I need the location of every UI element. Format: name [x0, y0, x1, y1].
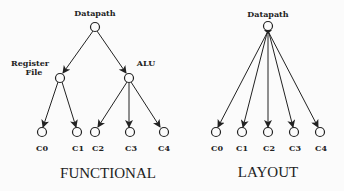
functional-leaf-label: C4	[158, 143, 170, 153]
functional-diagram: Datapath Register File ALU C0 C1 C2 C3 C…	[11, 8, 170, 181]
hierarchy-comparison-figure: Datapath Register File ALU C0 C1 C2 C3 C…	[0, 0, 344, 191]
edge-datapath-registerfile	[63, 31, 93, 73]
layout-leaf-node	[264, 128, 273, 137]
functional-leaf-label: C2	[92, 143, 104, 153]
alu-label: ALU	[136, 58, 155, 68]
layout-leaf-label: C1	[236, 143, 248, 153]
functional-caption: FUNCTIONAL	[60, 165, 156, 181]
layout-leaf-label: C0	[211, 143, 223, 153]
functional-leaf-node	[126, 128, 135, 137]
layout-leaf-node	[238, 128, 247, 137]
functional-leaf-label: C0	[36, 143, 48, 153]
edge-alu-c2	[98, 82, 127, 127]
layout-diagram: Datapath C0 C1 C2 C3 C4 LAYOUT	[211, 9, 327, 180]
functional-leaf-node	[73, 128, 82, 137]
register-file-label-line2: File	[26, 67, 43, 77]
edge-alu-c4	[131, 82, 160, 127]
edge-layout-c4	[269, 33, 318, 127]
layout-leaf-node	[290, 128, 299, 137]
diagram-canvas: Datapath Register File ALU C0 C1 C2 C3 C…	[0, 0, 344, 191]
edge-registerfile-c1	[62, 82, 76, 127]
layout-leaf-label: C4	[315, 143, 327, 153]
functional-root-node	[91, 23, 100, 32]
layout-root-node	[264, 22, 273, 31]
functional-leaf-label: C3	[125, 143, 137, 153]
layout-leaf-label: C3	[289, 143, 301, 153]
edge-layout-c0	[218, 33, 267, 127]
register-file-node	[56, 74, 65, 83]
layout-root-label: Datapath	[247, 9, 288, 19]
functional-leaf-node	[160, 128, 169, 137]
functional-leaf-node	[38, 128, 47, 137]
edge-registerfile-c0	[43, 82, 58, 127]
functional-leaf-node	[91, 128, 100, 137]
edge-datapath-alu	[97, 31, 126, 73]
alu-node	[125, 74, 134, 83]
layout-leaf-node	[212, 128, 221, 137]
layout-leaf-node	[316, 128, 325, 137]
functional-leaf-label: C1	[72, 143, 84, 153]
layout-leaf-label: C2	[263, 143, 275, 153]
layout-caption: LAYOUT	[238, 164, 298, 180]
edge-layout-c1	[243, 33, 267, 127]
functional-root-label: Datapath	[74, 8, 115, 18]
edge-layout-c3	[269, 33, 293, 127]
